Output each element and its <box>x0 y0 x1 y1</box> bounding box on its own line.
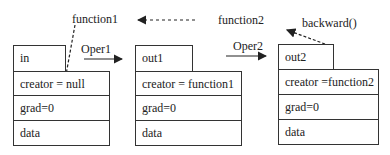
tensor-name: out1 <box>142 51 163 66</box>
grad-text: grad=0 <box>20 101 54 116</box>
data-text: data <box>20 126 40 141</box>
creator-text: creator = null <box>20 77 85 92</box>
creator-cell: creator =function2 <box>278 69 379 95</box>
data-text: data <box>142 126 162 141</box>
creator-cell: creator = null <box>13 71 110 96</box>
function1-label: function1 <box>72 12 118 26</box>
oper1-label: Oper1 <box>81 42 111 56</box>
data-cell: data <box>278 119 379 145</box>
creator-cell: creator = function1 <box>135 71 242 96</box>
data-text: data <box>285 125 305 140</box>
tensor-name: in <box>20 51 29 66</box>
data-cell: data <box>135 120 242 146</box>
oper2-label: Oper2 <box>233 39 263 53</box>
tensor-name-cell: out2 <box>278 44 334 70</box>
creator-text: creator = function1 <box>142 77 234 92</box>
tensor-name: out2 <box>285 50 306 65</box>
tensor-name-cell: in <box>13 45 66 72</box>
grad-cell: grad=0 <box>13 95 110 121</box>
grad-text: grad=0 <box>142 101 176 116</box>
data-cell: data <box>13 120 110 146</box>
creator-text: creator =function2 <box>285 75 374 90</box>
grad-cell: grad=0 <box>135 95 242 121</box>
tensor-name-cell: out1 <box>135 45 193 72</box>
backward-dashed-arrow <box>287 30 325 44</box>
function2-label: function2 <box>218 13 264 27</box>
grad-text: grad=0 <box>285 100 319 115</box>
grad-cell: grad=0 <box>278 94 379 120</box>
backward-label: backward() <box>302 16 357 30</box>
